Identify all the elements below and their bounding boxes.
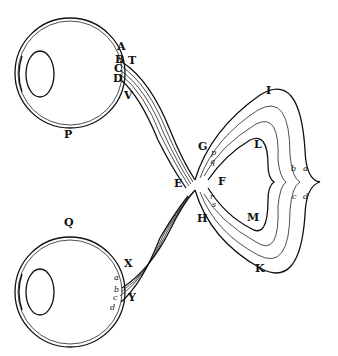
lower-eyeball [15,237,125,347]
label-c: c [292,192,297,201]
label-M: M [247,211,259,224]
label-Q: Q [64,216,74,229]
label-V: V [123,89,133,102]
label-lower-a: a [114,273,119,282]
upper-optic-nerve [120,62,195,188]
label-L: L [254,138,262,151]
upper-eyeball [15,18,125,128]
label-lower-c: c [113,293,118,302]
label-s: s [212,200,216,209]
label-T: T [128,54,137,67]
label-G: G [198,140,207,153]
label-P: P [64,128,72,141]
label-q: q [210,157,215,166]
label-b: b [291,164,296,173]
label-D: D [113,72,123,85]
label-F: F [218,175,226,188]
optic-tracts [195,89,320,273]
label-H: H [197,212,207,225]
label-lower-d: d [110,303,115,312]
label-X: X [124,257,133,270]
label-A: A [116,40,126,53]
lower-optic-nerve [120,190,195,302]
label-I: I [266,84,271,97]
label-E: E [174,177,182,190]
label-Y: Y [127,291,136,304]
label-K: K [255,262,265,275]
label-d: d [303,192,308,201]
optic-diagram: A B C D T V P Q E F G H p q r s I K L M … [0,0,338,356]
label-a: a [303,164,308,173]
label-p: p [211,148,216,157]
diagram-canvas: A B C D T V P Q E F G H p q r s I K L M … [0,0,338,356]
